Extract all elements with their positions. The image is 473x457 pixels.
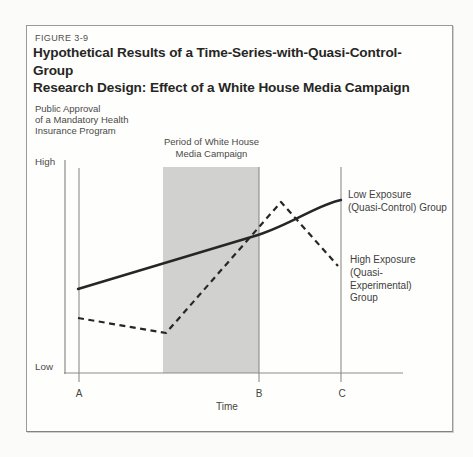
- low-exposure-series-label: Low Exposure (Quasi-Control) Group: [348, 189, 447, 215]
- campaign-period-band: [163, 167, 259, 373]
- y-axis-title: Public Approval of a Mandatory Health In…: [35, 103, 128, 136]
- high-exposure-label-line3: Experimental): [350, 280, 416, 293]
- low-exposure-label-line1: Low Exposure: [348, 189, 447, 202]
- x-axis-title: Time: [196, 401, 258, 412]
- figure-title-line2: Research Design: Effect of a White House…: [33, 79, 438, 97]
- campaign-band-label: Period of White House Media Campaign: [146, 136, 277, 159]
- y-tick-low: Low: [35, 361, 53, 372]
- campaign-band-label-line1: Period of White House: [146, 136, 277, 148]
- figure-title-line1: Hypothetical Results of a Time-Series-wi…: [33, 44, 438, 79]
- y-axis-title-line1: Public Approval: [35, 103, 128, 114]
- high-exposure-series-label: High Exposure (Quasi- Experimental) Grou…: [350, 254, 416, 305]
- high-exposure-label-line4: Group: [350, 292, 416, 305]
- figure-title: Hypothetical Results of a Time-Series-wi…: [33, 44, 438, 97]
- x-tick-c: C: [338, 388, 345, 399]
- x-tick-b: B: [256, 388, 263, 399]
- high-exposure-label-line1: High Exposure: [350, 254, 416, 267]
- y-tick-high: High: [35, 156, 55, 167]
- campaign-band-label-line2: Media Campaign: [146, 148, 277, 160]
- low-exposure-label-line2: (Quasi-Control) Group: [348, 202, 447, 215]
- figure-number: FIGURE 3-9: [35, 33, 89, 43]
- high-exposure-label-line2: (Quasi-: [350, 267, 416, 280]
- y-axis-title-line2: of a Mandatory Health: [35, 114, 128, 125]
- figure-page: FIGURE 3-9 Hypothetical Results of a Tim…: [0, 0, 473, 457]
- x-tick-a: A: [76, 388, 83, 399]
- y-axis-title-line3: Insurance Program: [35, 125, 128, 136]
